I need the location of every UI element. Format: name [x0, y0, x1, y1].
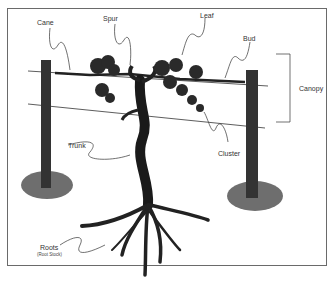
right-post: [246, 70, 258, 198]
canopy-bracket: [276, 54, 290, 122]
left-post: [41, 60, 51, 188]
trunk: [140, 80, 148, 205]
label-canopy: Canopy: [299, 85, 323, 92]
spur-callout: [115, 24, 131, 65]
grapevine-illustration: [0, 0, 333, 284]
roots: [82, 205, 208, 275]
label-roots-sub: (Root Stock): [37, 253, 62, 258]
label-cane: Cane: [37, 19, 54, 26]
label-spur: Spur: [103, 15, 118, 22]
cane-callout: [49, 28, 70, 70]
roots-callout: [60, 238, 105, 253]
leaf-callout: [182, 18, 205, 55]
label-bud: Bud: [243, 35, 255, 42]
label-cluster: Cluster: [218, 150, 240, 157]
cluster-callout: [204, 112, 228, 142]
label-trunk: Trunk: [68, 142, 86, 149]
label-roots: Roots: [40, 244, 58, 251]
label-leaf: Leaf: [200, 12, 214, 19]
leaves: [90, 55, 204, 112]
